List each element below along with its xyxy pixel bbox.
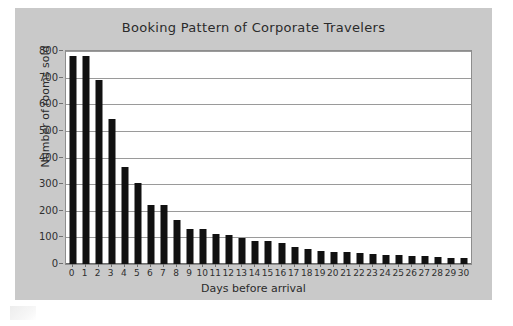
x-tick-label-18: 18 <box>301 268 312 278</box>
bar-slot <box>236 51 249 264</box>
x-tick-mark-11 <box>215 264 216 267</box>
bar[interactable] <box>291 247 298 264</box>
bar[interactable] <box>356 253 363 264</box>
x-tick-label-22: 22 <box>353 268 364 278</box>
bar[interactable] <box>226 235 233 264</box>
x-tick-label-15: 15 <box>262 268 273 278</box>
bar[interactable] <box>121 167 128 264</box>
x-tick-label-21: 21 <box>340 268 351 278</box>
bar[interactable] <box>82 56 89 264</box>
x-tick-mark-26 <box>411 264 412 267</box>
y-tick-mark-500 <box>59 130 63 131</box>
x-tick-label-0: 0 <box>69 268 75 278</box>
bar-slot <box>118 51 131 264</box>
bar[interactable] <box>200 229 207 264</box>
bar-slot <box>458 51 471 264</box>
bar-slot <box>432 51 445 264</box>
x-tick-label-11: 11 <box>210 268 221 278</box>
x-tick-label-7: 7 <box>160 268 166 278</box>
y-tick-mark-700 <box>59 77 63 78</box>
bar[interactable] <box>343 252 350 264</box>
x-tick-mark-30 <box>463 264 464 267</box>
x-tick-label-30: 30 <box>458 268 469 278</box>
bar[interactable] <box>252 241 259 264</box>
bar[interactable] <box>396 255 403 264</box>
x-tick-label-4: 4 <box>121 268 127 278</box>
bar[interactable] <box>409 256 416 264</box>
y-tick-label-200: 200 <box>39 204 58 215</box>
x-tick-label-10: 10 <box>196 268 207 278</box>
bar-slot <box>419 51 432 264</box>
bar[interactable] <box>317 251 324 264</box>
x-tick-label-3: 3 <box>108 268 114 278</box>
x-tick-mark-23 <box>372 264 373 267</box>
bar[interactable] <box>147 205 154 264</box>
x-tick-mark-3 <box>111 264 112 267</box>
bar[interactable] <box>174 220 181 264</box>
x-tick-label-2: 2 <box>95 268 101 278</box>
bar[interactable] <box>370 254 377 264</box>
y-tick-mark-0 <box>59 263 63 264</box>
bar[interactable] <box>435 257 442 264</box>
x-tick-label-20: 20 <box>327 268 338 278</box>
bar-slot <box>327 51 340 264</box>
x-tick-mark-16 <box>281 264 282 267</box>
x-tick-mark-9 <box>189 264 190 267</box>
bar[interactable] <box>278 243 285 264</box>
bar-slot <box>223 51 236 264</box>
x-tick-mark-1 <box>85 264 86 267</box>
bar-slot <box>105 51 118 264</box>
bar-slot <box>393 51 406 264</box>
bar-slot <box>445 51 458 264</box>
x-tick-label-1: 1 <box>82 268 88 278</box>
bar[interactable] <box>213 234 220 264</box>
bar[interactable] <box>422 256 429 264</box>
bar-slot <box>353 51 366 264</box>
bar[interactable] <box>265 241 272 264</box>
bar[interactable] <box>95 80 102 264</box>
bar[interactable] <box>383 255 390 264</box>
x-tick-label-14: 14 <box>249 268 260 278</box>
bar[interactable] <box>187 229 194 264</box>
bar-slot <box>197 51 210 264</box>
bar-slot <box>210 51 223 264</box>
scan-artifact <box>10 306 36 320</box>
bar-slot <box>340 51 353 264</box>
x-tick-label-23: 23 <box>366 268 377 278</box>
x-axis-title: Days before arrival <box>15 282 492 295</box>
bar-slot <box>171 51 184 264</box>
x-tick-mark-18 <box>307 264 308 267</box>
x-tick-mark-20 <box>333 264 334 267</box>
bar-slot <box>275 51 288 264</box>
x-tick-mark-25 <box>398 264 399 267</box>
x-tick-mark-14 <box>254 264 255 267</box>
y-tick-mark-300 <box>59 183 63 184</box>
bar-slot <box>380 51 393 264</box>
bar[interactable] <box>69 56 76 264</box>
x-tick-mark-10 <box>202 264 203 267</box>
x-tick-mark-7 <box>163 264 164 267</box>
bar[interactable] <box>239 238 246 264</box>
x-tick-mark-12 <box>228 264 229 267</box>
chart-screenshot: Booking Pattern of Corporate Travelers N… <box>0 0 513 326</box>
x-tick-mark-27 <box>424 264 425 267</box>
x-tick-label-17: 17 <box>288 268 299 278</box>
bar-slot <box>366 51 379 264</box>
bar-slot <box>92 51 105 264</box>
bar-slot <box>184 51 197 264</box>
y-tick-label-600: 600 <box>39 98 58 109</box>
x-tick-label-27: 27 <box>419 268 430 278</box>
x-tick-mark-24 <box>385 264 386 267</box>
bar[interactable] <box>108 119 115 264</box>
y-tick-label-500: 500 <box>39 124 58 135</box>
bar-slot <box>262 51 275 264</box>
bar[interactable] <box>304 249 311 264</box>
x-tick-mark-4 <box>124 264 125 267</box>
bar[interactable] <box>134 183 141 264</box>
bar-slot <box>406 51 419 264</box>
bar[interactable] <box>160 205 167 264</box>
x-tick-mark-2 <box>98 264 99 267</box>
bar-slot <box>131 51 144 264</box>
bar[interactable] <box>330 252 337 265</box>
x-tick-label-25: 25 <box>392 268 403 278</box>
